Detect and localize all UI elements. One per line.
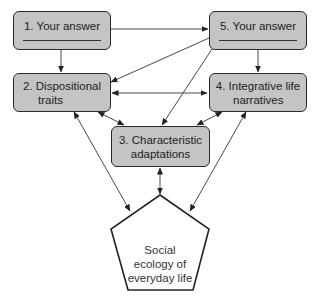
node-4-label-line2: narratives [210, 93, 306, 107]
node-5-label: 5. Your answer [210, 19, 306, 33]
node-1-your-answer: 1. Your answer [13, 11, 111, 50]
node-4-integrative-life-narratives: 4. Integrative life narratives [209, 73, 307, 112]
node-2-label-line1: 2. Dispositional [14, 79, 110, 93]
node-3-label-line1: 3. Characteristic [112, 133, 209, 147]
node-2-label-line2: traits [14, 93, 110, 107]
social-label-line3: everyday life [118, 271, 202, 285]
node-5-your-answer: 5. Your answer [209, 11, 307, 50]
social-label-line1: Social [118, 243, 202, 257]
node-1-answer-blank[interactable] [23, 40, 101, 41]
node-1-label: 1. Your answer [14, 19, 110, 33]
node-4-label-line1: 4. Integrative life [210, 79, 306, 93]
node-2-dispositional-traits: 2. Dispositional traits [13, 73, 111, 112]
edge-2-3 [98, 112, 124, 125]
social-ecology-label: Social ecology of everyday life [118, 243, 202, 285]
edge-5-to-3 [162, 49, 212, 125]
social-label-line2: ecology of [118, 257, 202, 271]
edge-4-3 [197, 112, 222, 125]
node-3-characteristic-adaptations: 3. Characteristic adaptations [111, 126, 210, 167]
node-3-label-line2: adaptations [112, 147, 209, 161]
node-5-answer-blank[interactable] [219, 40, 297, 41]
